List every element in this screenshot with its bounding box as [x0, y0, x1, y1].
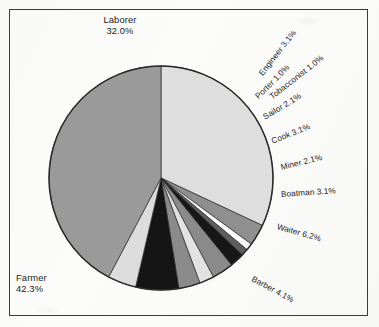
slice-label-farmer-name: Farmer	[16, 272, 47, 283]
slice-label-farmer-value: 42.3%	[16, 283, 47, 294]
slice-label-farmer: Farmer 42.3%	[16, 272, 47, 294]
pie-chart: Laborer 32.0% Farmer 42.3% Engineer 3.1%…	[0, 0, 379, 327]
chart-screenshot: Laborer 32.0% Farmer 42.3% Engineer 3.1%…	[0, 0, 379, 327]
slice-label-laborer: Laborer 32.0%	[83, 14, 157, 36]
pie-slices-svg	[0, 0, 379, 327]
slice-label-laborer-value: 32.0%	[83, 25, 157, 36]
slice-label-laborer-name: Laborer	[83, 14, 157, 25]
